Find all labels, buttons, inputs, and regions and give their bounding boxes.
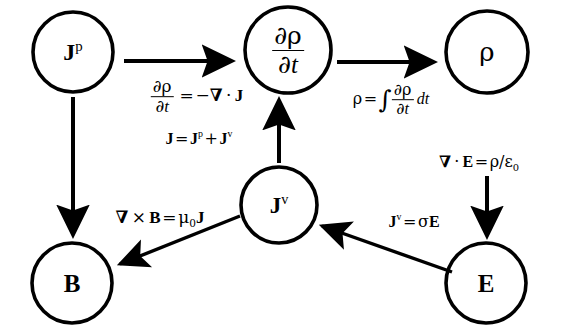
node-circle-Jv[interactable] (241, 167, 317, 243)
edge-E-to-Jv (322, 226, 452, 272)
physics-flow-diagram: Jp ∂ρ ∂t ρ Jv B E ∂ρ ∂t = −∇ · J J = Jp … (0, 0, 568, 333)
edge-Jv-to-B (120, 216, 240, 264)
diagram-canvas (0, 0, 568, 333)
node-circle-E[interactable] (446, 243, 526, 323)
node-circle-B[interactable] (32, 243, 112, 323)
node-circle-Jp[interactable] (33, 12, 113, 92)
node-circle-rho[interactable] (446, 11, 528, 93)
node-circle-drho-dt[interactable] (245, 7, 331, 93)
